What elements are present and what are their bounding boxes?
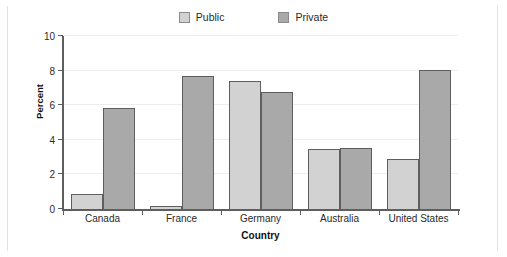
bar-chart-figure: Public Private 0246810 CanadaFranceGerma… bbox=[0, 0, 507, 257]
bar-public-germany bbox=[229, 81, 261, 209]
bar-private-australia bbox=[340, 148, 372, 209]
bar-private-germany bbox=[261, 92, 293, 209]
x-axis-category-label: Australia bbox=[300, 212, 379, 226]
bar-private-united-states bbox=[419, 70, 451, 209]
bar-groups bbox=[63, 36, 458, 209]
bar-group bbox=[63, 36, 142, 209]
bar-group bbox=[221, 36, 300, 209]
legend-swatch-public-icon bbox=[179, 12, 190, 23]
plot-area: 0246810 bbox=[63, 36, 458, 209]
frame-rule-right bbox=[497, 6, 498, 251]
bar-public-france bbox=[150, 206, 182, 209]
x-axis-category-label: France bbox=[142, 212, 221, 226]
x-axis-category-labels: CanadaFranceGermanyAustraliaUnited State… bbox=[63, 212, 458, 226]
y-axis-title: Percent bbox=[34, 84, 45, 119]
legend-label-private: Private bbox=[295, 12, 328, 23]
legend-label-public: Public bbox=[196, 12, 225, 23]
legend-swatch-private-icon bbox=[278, 12, 289, 23]
x-axis-category-label: Canada bbox=[63, 212, 142, 226]
frame-rule-left bbox=[7, 6, 8, 251]
y-axis-tick-label: 4 bbox=[49, 134, 55, 145]
x-axis-line bbox=[62, 209, 460, 211]
bar-public-canada bbox=[71, 194, 103, 209]
bar-group bbox=[142, 36, 221, 209]
legend-item-private: Private bbox=[278, 12, 328, 23]
bar-public-australia bbox=[308, 149, 340, 209]
y-axis-tick-label: 10 bbox=[44, 31, 55, 42]
plot-wrapper: 0246810 bbox=[63, 36, 458, 209]
y-axis-tick-label: 8 bbox=[49, 65, 55, 76]
y-axis-tick-label: 6 bbox=[49, 100, 55, 111]
y-axis-tick-label: 2 bbox=[49, 169, 55, 180]
x-axis-category-label: Germany bbox=[221, 212, 300, 226]
bar-group bbox=[300, 36, 379, 209]
x-axis-category-label: United States bbox=[379, 212, 458, 226]
bar-private-canada bbox=[103, 108, 135, 209]
bar-public-united-states bbox=[387, 159, 419, 209]
x-axis-title: Country bbox=[63, 230, 458, 241]
y-axis-tick-label: 0 bbox=[49, 204, 55, 215]
legend-item-public: Public bbox=[179, 12, 225, 23]
bar-group bbox=[379, 36, 458, 209]
bar-private-france bbox=[182, 76, 214, 209]
chart-legend: Public Private bbox=[0, 9, 507, 25]
